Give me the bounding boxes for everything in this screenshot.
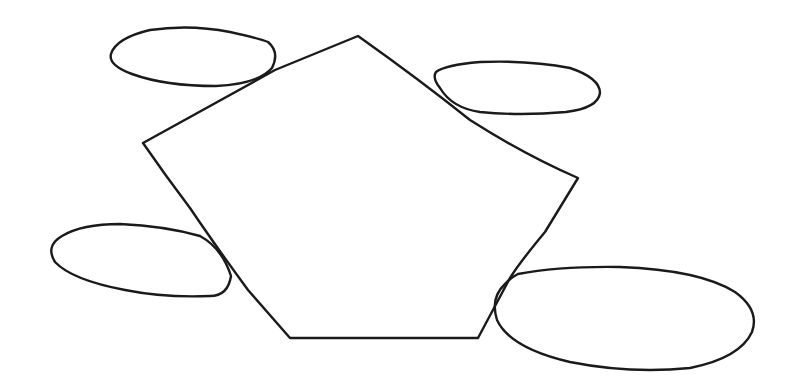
sketch-diagram <box>0 0 798 387</box>
bottom-right-ellipse <box>495 267 754 370</box>
bottom-left-ellipse <box>51 224 231 296</box>
diagram-canvas <box>0 0 798 387</box>
central-pentagon <box>143 36 578 338</box>
top-left-ellipse <box>111 27 276 86</box>
top-right-ellipse <box>435 62 600 114</box>
